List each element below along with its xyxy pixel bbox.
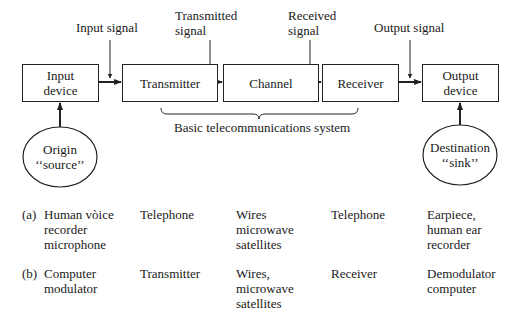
transmitter-block: Transmitter [122, 64, 218, 102]
row-b-input: Computer modulator [44, 266, 97, 296]
input-signal-label: Input signal [76, 20, 138, 35]
destination-text: Destination ‘‘sink’’ [421, 140, 499, 170]
row-b-transmitter: Transmitter [140, 266, 200, 281]
output-device-label-line2: device [442, 83, 478, 98]
origin-label-line1: Origin [23, 142, 97, 157]
output-device-label-line1: Output [442, 68, 478, 83]
output-device-block: Output device [422, 64, 499, 102]
received-signal-label-line2: signal [288, 23, 319, 38]
row-b-output: Demodulator computer [427, 266, 496, 296]
receiver-label: Receiver [337, 76, 383, 91]
receiver-block: Receiver [322, 64, 399, 102]
origin-text: Origin ‘‘source’’ [23, 142, 97, 172]
row-a-tag: (a) [22, 207, 36, 222]
origin-label-line2: ‘‘source’’ [23, 157, 97, 172]
row-b-receiver: Receiver [331, 266, 377, 281]
channel-label: Channel [249, 76, 292, 91]
row-a-channel: Wires microwave satellites [236, 207, 294, 252]
transmitted-signal-label-line1: Transmitted [175, 8, 237, 23]
row-a-output: Earpiece, human ear recorder [427, 207, 482, 252]
basic-system-label: Basic telecommunications system [174, 120, 350, 135]
destination-label-line2: ‘‘sink’’ [421, 155, 499, 170]
row-a-receiver: Telephone [331, 207, 385, 222]
transmitted-signal-label-line2: signal [175, 23, 206, 38]
row-a-input: Human vòice recorder microphone [44, 207, 114, 252]
row-b-channel: Wires, microwave satellites [236, 266, 294, 311]
received-signal-label-line1: Received [288, 8, 336, 23]
row-b-tag: (b) [22, 266, 37, 281]
input-device-block: Input device [22, 64, 99, 102]
input-device-label-line1: Input [44, 68, 78, 83]
destination-label-line1: Destination [421, 140, 499, 155]
system-brace [161, 108, 358, 119]
channel-block: Channel [223, 64, 319, 102]
input-device-label-line2: device [44, 83, 78, 98]
row-a-transmitter: Telephone [140, 207, 194, 222]
output-signal-label: Output signal [374, 20, 444, 35]
transmitter-label: Transmitter [140, 76, 200, 91]
